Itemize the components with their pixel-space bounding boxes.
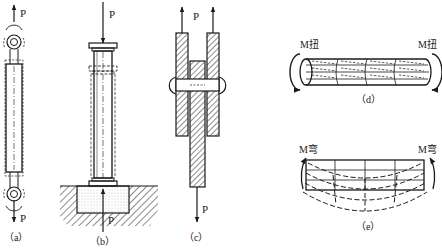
caption-b: （b） bbox=[90, 236, 115, 247]
rotation-arc-top bbox=[6, 25, 22, 30]
eye-bottom bbox=[7, 187, 21, 201]
load-label-top: P bbox=[20, 7, 26, 19]
torque-arrow-left bbox=[290, 54, 300, 90]
torque-arrow-right bbox=[432, 54, 442, 90]
panel-d-torsion: M扭 M扭 （d） bbox=[290, 38, 442, 105]
caption-a: （a） bbox=[4, 232, 28, 243]
panel-a-tension: P P （a） bbox=[4, 5, 29, 243]
caption-e: （e） bbox=[356, 221, 380, 232]
rivet-head-left bbox=[169, 77, 176, 94]
moment-arrow-right bbox=[430, 158, 435, 189]
rivet-head-right bbox=[219, 77, 226, 94]
load-label-bottom: P bbox=[108, 214, 114, 226]
column-cap bbox=[89, 43, 117, 48]
twisted-gridlines bbox=[312, 61, 424, 78]
moment-label-right: M弯 bbox=[418, 143, 437, 155]
load-label-top: P bbox=[109, 8, 115, 20]
moment-label-right: M扭 bbox=[418, 38, 437, 50]
caption-d: （d） bbox=[356, 94, 381, 105]
moment-label-left: M弯 bbox=[299, 143, 318, 155]
deformation-diagram: P P （a） P bbox=[0, 0, 442, 252]
load-label-bottom: P bbox=[202, 203, 208, 215]
caption-c: （c） bbox=[184, 232, 208, 243]
column-base bbox=[89, 181, 117, 186]
panel-c-shear: P P （c） bbox=[169, 7, 225, 243]
column-body bbox=[94, 51, 112, 178]
panel-b-compression: P P （b） bbox=[60, 2, 158, 247]
eye-top bbox=[7, 35, 21, 49]
load-label-bottom: P bbox=[20, 212, 26, 224]
load-label-top: P bbox=[193, 10, 199, 22]
panel-e-bending: M弯 M弯 （e） bbox=[299, 143, 437, 232]
moment-arrow-left bbox=[301, 158, 306, 189]
moment-label-left: M扭 bbox=[300, 38, 319, 50]
